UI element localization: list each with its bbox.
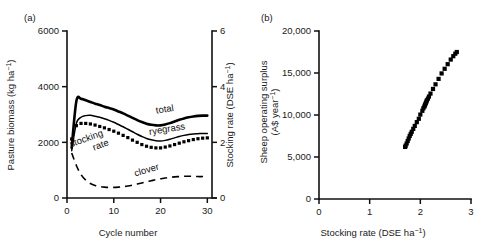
stocking-rate-marker — [150, 146, 153, 149]
series-label-clover: clover — [133, 161, 160, 179]
panel-a-y2-tick-label: 2 — [220, 137, 225, 148]
panel-a-y2-tick-label: 0 — [220, 192, 225, 203]
panel-b-x-tick-label: 3 — [468, 206, 473, 217]
stocking-rate-marker — [201, 137, 204, 140]
panel-a-y-tick-label: 2000 — [38, 137, 59, 148]
stocking-rate-marker — [173, 143, 176, 146]
figure-root: (a) Pasture biomass (kg ha−1) Stocking r… — [0, 0, 486, 251]
scatter-point — [428, 91, 432, 95]
stocking-rate-marker — [75, 124, 78, 127]
scatter-point — [431, 87, 435, 91]
stocking-rate-marker — [93, 123, 96, 126]
panel-a-y-axis-title: Pasture biomass (kg ha−1) — [5, 60, 17, 171]
panel-b-y-tick-label: 15,000 — [282, 67, 311, 78]
stocking-rate-marker — [108, 128, 111, 131]
panel-a-chart: (a) Pasture biomass (kg ha−1) Stocking r… — [0, 0, 243, 251]
scatter-point — [418, 112, 422, 116]
scatter-point — [433, 82, 437, 86]
panel-b-y-ticks: 05,00010,00015,00020,000 — [282, 25, 319, 204]
stocking-rate-marker — [154, 146, 157, 149]
stocking-rate-marker — [145, 145, 148, 148]
stocking-rate-marker — [84, 122, 87, 125]
stocking-rate-marker — [178, 142, 181, 145]
stocking-rate-marker — [196, 137, 199, 140]
panel-a-y2-tick-label: 6 — [220, 25, 225, 36]
panel-b-y-tick-label: 10,000 — [282, 109, 311, 120]
panel-b-x-ticks: 0123 — [316, 199, 473, 217]
scatter-point — [455, 50, 459, 54]
scatter-point — [417, 117, 421, 121]
panel-a-y-tick-label: 4000 — [38, 81, 59, 92]
stocking-rate-marker — [168, 144, 171, 147]
stocking-rate-marker — [192, 138, 195, 141]
scatter-point — [413, 124, 417, 128]
stocking-rate-marker — [79, 122, 82, 125]
stocking-rate-marker — [182, 140, 185, 143]
panel-a-x-tick-label: 10 — [108, 205, 119, 216]
panel-b-x-axis-title: Stocking rate (DSE ha−1) — [320, 227, 425, 239]
stocking-rate-marker — [164, 145, 167, 148]
panel-b-chart: (b) Sheep operating surplus (A$ year−1) … — [243, 0, 486, 251]
stocking-rate-marker — [122, 134, 125, 137]
panel-a-y2-axis-title: Stocking rate (DSE ha−1) — [224, 62, 236, 167]
panel-b-y-axis-title-line1: Sheep operating surplus — [258, 60, 269, 163]
stocking-rate-marker — [126, 136, 129, 139]
stocking-rate-marker — [117, 132, 120, 135]
panel-a-label: (a) — [24, 12, 36, 23]
stocking-rate-marker — [140, 143, 143, 146]
scatter-point — [436, 77, 440, 81]
scatter-point — [446, 62, 450, 66]
stocking-rate-marker — [159, 146, 162, 149]
panel-a-x-ticks: 0102030 — [64, 198, 212, 216]
panel-b-label: (b) — [261, 12, 273, 23]
scatter-point — [440, 71, 444, 75]
panel-a-x-axis-title: Cycle number — [99, 227, 158, 238]
panel-a-y-axis-title-text: Pasture biomass (kg ha — [5, 70, 16, 171]
panel-b-x-tick-label: 1 — [367, 206, 372, 217]
panel-b-y-tick-label: 5,000 — [287, 151, 311, 162]
panel-b-y-tick-label: 20,000 — [282, 25, 311, 36]
panel-a-left-ticks: 0200040006000 — [38, 25, 67, 203]
stocking-rate-marker — [89, 122, 92, 125]
panel-b-x-tick-label: 2 — [418, 206, 423, 217]
panel-b-y-tick-label: 0 — [306, 193, 311, 204]
panel-a-x-tick-label: 0 — [64, 205, 69, 216]
panel-a-x-tick-label: 20 — [155, 205, 166, 216]
stocking-rate-marker — [136, 141, 139, 144]
stocking-rate-marker — [112, 130, 115, 133]
series-label-total: total — [155, 102, 174, 116]
panel-a-y-tick-label: 6000 — [38, 25, 59, 36]
panel-a-y2-tick-label: 4 — [220, 81, 225, 92]
panel-a-y-tick-label: 0 — [54, 192, 59, 203]
stocking-rate-marker — [187, 139, 190, 142]
panel-b-scatter-points — [403, 50, 459, 149]
stocking-rate-marker — [206, 136, 209, 139]
stocking-rate-marker — [131, 139, 134, 142]
scatter-point — [443, 67, 447, 71]
series-label-ryegrass: ryegrass — [148, 120, 186, 137]
panel-b-x-tick-label: 0 — [316, 206, 321, 217]
panel-a-y2-axis-title-text: Stocking rate (DSE ha — [224, 73, 235, 168]
panel-b-y-axis-title-line2: (A$ year−1) — [269, 88, 281, 135]
panel-a-x-tick-label: 30 — [202, 205, 213, 216]
